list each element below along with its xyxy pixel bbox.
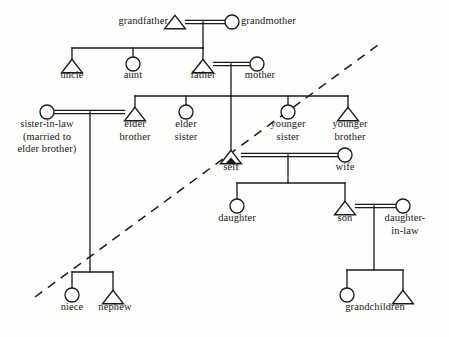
female-circle-icon xyxy=(338,148,352,162)
node-label-uncle: uncle xyxy=(60,69,83,82)
node-label-wife: wife xyxy=(335,161,354,174)
female-circle-icon xyxy=(281,105,295,119)
node-label-younger-sister: younger sister xyxy=(270,118,305,143)
female-circle-icon xyxy=(65,288,79,302)
node-label-sister-in-law: sister-in-law (married to elder brother) xyxy=(18,118,77,156)
person-node-daughter[interactable] xyxy=(230,199,244,213)
female-circle-icon xyxy=(396,199,410,213)
node-label-nephew: nephew xyxy=(98,301,131,314)
node-label-daughter-in-law: daughter- in-law xyxy=(385,212,426,237)
node-label-self: self xyxy=(223,161,239,174)
kinship-diagram: grandfathergrandmotheruncleauntfathermot… xyxy=(0,0,449,337)
node-label-father: father xyxy=(190,69,215,82)
person-node-wife[interactable] xyxy=(338,148,352,162)
node-label-elder-sister: elder sister xyxy=(175,118,198,143)
node-label-daughter: daughter xyxy=(218,212,256,225)
node-label-mother: mother xyxy=(245,69,275,82)
node-label-grandmother: grandmother xyxy=(241,15,296,28)
marriage-link xyxy=(186,20,226,23)
marriage-link xyxy=(356,204,397,207)
female-circle-icon xyxy=(230,199,244,213)
marriage-link xyxy=(214,62,251,65)
node-label-son: son xyxy=(338,212,353,225)
node-label-grandchild-f: grandchildren xyxy=(345,301,405,314)
sibling-group xyxy=(237,155,345,201)
person-node-elder-sister[interactable] xyxy=(179,105,193,119)
female-circle-icon xyxy=(225,15,239,29)
sibling-group xyxy=(135,64,348,150)
person-node-grandchild-f[interactable] xyxy=(340,288,354,302)
generation-divider-dashed-line xyxy=(35,45,378,297)
person-node-younger-sister[interactable] xyxy=(281,105,295,119)
person-node-grandmother[interactable] xyxy=(225,15,239,29)
marriage-link xyxy=(54,110,125,113)
node-label-elder-brother: elder brother xyxy=(119,118,150,143)
person-node-niece[interactable] xyxy=(65,288,79,302)
marriage-link xyxy=(242,153,339,156)
person-node-daughter-in-law[interactable] xyxy=(396,199,410,213)
female-circle-icon xyxy=(340,288,354,302)
female-circle-icon xyxy=(40,105,54,119)
female-circle-icon xyxy=(179,105,193,119)
node-label-niece: niece xyxy=(61,301,84,314)
node-label-aunt: aunt xyxy=(124,69,142,82)
node-label-younger-brother: younger brother xyxy=(332,118,367,143)
person-node-sister-in-law[interactable] xyxy=(40,105,54,119)
sibling-group xyxy=(72,112,113,290)
node-label-grandfather: grandfather xyxy=(119,15,169,28)
